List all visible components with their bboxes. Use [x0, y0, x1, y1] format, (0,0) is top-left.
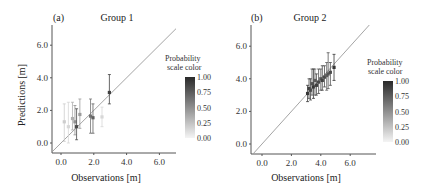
panel-a-colorbar-title: Probability — [165, 54, 201, 63]
panel-b-title: Group 2 — [293, 12, 326, 23]
x-tick-label: 0.0 — [55, 157, 67, 167]
panel-a-ylabel: Predictions [m] — [16, 64, 27, 126]
data-point — [100, 115, 103, 118]
x-tick-label: 6.0 — [154, 157, 166, 167]
data-point — [91, 116, 94, 119]
y-tick-label: 2.0 — [37, 105, 49, 115]
panel-a: (a) Group 1 Predictions [m] Observations… — [16, 12, 211, 183]
panel-b-colorbar-title: Probability — [367, 58, 403, 67]
y-tick-label: 0.0 — [37, 138, 49, 148]
y-tick-label: 0.0 — [236, 139, 248, 149]
data-point — [73, 120, 76, 123]
panel-a-label: (a) — [53, 12, 64, 24]
colorbar-tick-label: 0.75 — [197, 88, 211, 97]
colorbar-tick-label: 0.25 — [197, 119, 211, 128]
x-tick-label: 2.0 — [88, 157, 100, 167]
data-point — [75, 125, 78, 128]
y-tick-label: 2.0 — [236, 106, 248, 116]
colorbar-tick-label: 0.50 — [197, 104, 211, 113]
x-tick-label: 4.0 — [315, 158, 327, 168]
data-point — [321, 79, 324, 82]
panel-b: (b) Group 2 Observations [m] Probability… — [236, 12, 409, 183]
panel-b-xlabel: Observations [m] — [271, 172, 341, 183]
colorbar-tick-label: 0.00 — [197, 134, 211, 143]
y-tick-label: 4.0 — [37, 73, 49, 83]
y-tick-label: 6.0 — [37, 40, 49, 50]
data-point — [317, 80, 320, 83]
y-tick-label: 6.0 — [236, 41, 248, 51]
data-point — [71, 117, 74, 120]
y-tick-label: 4.0 — [236, 74, 248, 84]
data-point — [67, 125, 70, 128]
panel-b-label: (b) — [251, 12, 263, 24]
chart-figure: (a) Group 1 Predictions [m] Observations… — [0, 0, 429, 192]
panel-a-title: Group 1 — [100, 12, 133, 23]
colorbar-tick-label: 0.00 — [395, 138, 409, 147]
colorbar-tick-label: 0.75 — [395, 92, 409, 101]
data-point — [108, 91, 111, 94]
colorbar — [185, 77, 195, 138]
data-point — [329, 71, 332, 74]
data-point — [63, 120, 66, 123]
data-point — [315, 84, 318, 87]
data-point — [332, 66, 335, 69]
x-tick-label: 2.0 — [286, 158, 298, 168]
colorbar-tick-label: 1.00 — [395, 77, 409, 86]
colorbar-tick-label: 0.50 — [395, 108, 409, 117]
data-point — [78, 113, 81, 116]
panel-a-xlabel: Observations [m] — [71, 172, 141, 183]
reference-line-1to1 — [52, 29, 176, 152]
colorbar — [383, 81, 393, 142]
colorbar-tick-label: 1.00 — [197, 73, 211, 82]
colorbar-tick-label: 0.25 — [395, 123, 409, 132]
x-tick-label: 4.0 — [121, 157, 133, 167]
panel-a-colorbar-subtitle: scale color — [167, 63, 202, 72]
x-tick-label: 6.0 — [345, 158, 357, 168]
panel-b-colorbar-subtitle: scale color — [368, 67, 403, 76]
x-tick-label: 0.0 — [256, 158, 268, 168]
